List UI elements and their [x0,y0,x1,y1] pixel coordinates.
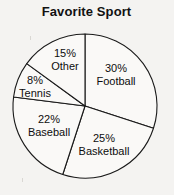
slice-percent-baseball: 22% [0,113,136,126]
slice-percent-other: 15% [0,47,152,60]
slice-name-tennis: Tennis [0,87,122,100]
slice-percent-tennis: 8% [0,74,122,87]
scan-artifact [22,178,23,182]
slice-label-baseball: 22% Baseball [0,113,136,138]
slice-name-baseball: Baseball [0,126,136,139]
slice-label-tennis: 8% Tennis [0,74,122,99]
scan-artifact [30,36,31,40]
pie-chart-figure: Favorite Sport 30% Football 25% Basketba… [0,0,173,195]
slice-name-basketball: Basketball [18,145,174,158]
slice-label-other: 15% Other [0,47,152,72]
slice-name-other: Other [0,60,152,73]
